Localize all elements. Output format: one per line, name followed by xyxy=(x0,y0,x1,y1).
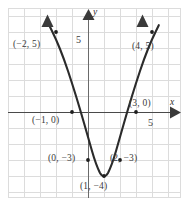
point-label-neg1-0: (−1, 0) xyxy=(32,116,59,126)
coordinate-plane-figure: (−2, 5) (4, 5) (−1, 0) (3, 0) (0, −3) (2… xyxy=(0,0,187,212)
grid-lines xyxy=(8,8,181,198)
y-axis-tick-label-5: 5 xyxy=(76,35,81,45)
point-dot-4-5 xyxy=(150,30,154,34)
point-label-1-neg4: (1, −4) xyxy=(80,182,107,192)
point-label-neg2-5: (−2, 5) xyxy=(13,40,40,50)
x-axis-label: x xyxy=(170,98,174,108)
point-dot-neg2-5 xyxy=(54,30,58,34)
point-dot-neg1-0 xyxy=(70,110,74,114)
point-label-2-neg3: (2, −3) xyxy=(110,154,137,164)
x-axis-arrow-icon xyxy=(170,107,181,119)
parabola-curve xyxy=(42,15,159,177)
x-axis-tick-label-5: 5 xyxy=(148,118,153,128)
point-label-0-neg3: (0, −3) xyxy=(48,154,75,164)
y-axis-label: y xyxy=(93,8,97,18)
point-dot-1-neg4 xyxy=(102,174,106,178)
point-dot-3-0 xyxy=(134,110,138,114)
point-label-4-5: (4, 5) xyxy=(132,42,154,52)
point-label-3-0: (3, 0) xyxy=(129,99,151,109)
y-axis xyxy=(83,9,95,198)
point-dot-0-neg3 xyxy=(86,158,90,162)
